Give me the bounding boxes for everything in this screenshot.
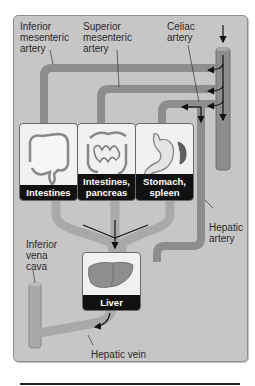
label-line: artery	[167, 32, 195, 43]
label-superior-mesenteric-artery: Superior mesenteric artery	[83, 21, 132, 54]
label-inferior-mesenteric-artery: Inferior mesenteric artery	[20, 21, 69, 54]
label-line: Hepatic	[209, 222, 243, 233]
caption-line: Intestines	[20, 187, 77, 198]
organ-card-stomach-spleen: Stomach, spleen	[135, 123, 194, 201]
label-line: vena	[26, 250, 57, 261]
label-line: Inferior	[26, 239, 57, 250]
label-inferior-vena-cava: Inferior vena cava	[26, 239, 57, 272]
label-line: artery	[209, 233, 243, 244]
caption-line: Stomach,	[136, 176, 193, 187]
organ-card-intestines: Intestines	[19, 123, 78, 201]
label-line: artery	[83, 43, 132, 54]
label-line: Celiac	[167, 21, 195, 32]
organ-card-intestines-pancreas: Intestines, pancreas	[77, 123, 136, 201]
organ-caption: Intestines	[20, 185, 77, 200]
label-hepatic-artery: Hepatic artery	[209, 222, 243, 244]
label-line: mesenteric	[20, 32, 69, 43]
organ-card-liver: Liver	[82, 252, 141, 311]
organ-caption: Stomach, spleen	[136, 174, 193, 200]
bottom-divider	[20, 383, 240, 385]
caption-line: Intestines,	[78, 176, 135, 187]
label-line: mesenteric	[83, 32, 132, 43]
caption-line: pancreas	[78, 187, 135, 198]
label-line: cava	[26, 261, 57, 272]
organ-caption: Liver	[83, 295, 140, 310]
caption-line: Liver	[83, 297, 140, 308]
label-line: artery	[20, 43, 69, 54]
label-celiac-artery: Celiac artery	[167, 21, 195, 43]
label-hepatic-vein: Hepatic vein	[91, 349, 146, 360]
label-line: Inferior	[20, 21, 69, 32]
inferior-vena-cava-vessel	[29, 282, 41, 348]
label-line: Superior	[83, 21, 132, 32]
inferior-mesenteric-artery-vessel	[44, 68, 216, 125]
organ-caption: Intestines, pancreas	[78, 174, 135, 200]
caption-line: spleen	[136, 187, 193, 198]
